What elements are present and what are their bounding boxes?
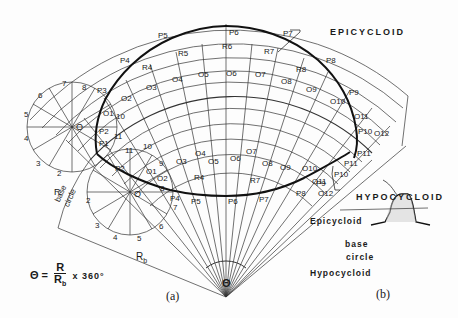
epi-o5: O5: [198, 71, 209, 79]
b-epicycloid-label: Epicycloid: [310, 217, 363, 226]
hypo-o3: O3: [176, 158, 187, 166]
epi-p9: P9: [349, 89, 359, 97]
hypo-o6: O6: [230, 155, 241, 163]
epi-div-11: 11: [114, 133, 122, 141]
epi-o2: O2: [121, 95, 132, 103]
fan-right-edge: [402, 96, 408, 146]
formula-rhs: x 360°: [72, 271, 104, 281]
epi-p8: P8: [326, 57, 336, 65]
rolling-radius-label: R: [54, 188, 61, 197]
caption-b: (b): [376, 288, 390, 300]
hypo-p11: P11: [344, 160, 358, 168]
epi-r5: R5: [178, 50, 188, 58]
epi-div-3: 3: [36, 160, 40, 168]
hypo-div-10: 10: [143, 143, 152, 151]
hypo-r4: R4: [194, 174, 204, 182]
formula-fraction: R Rb: [54, 262, 66, 289]
epi-o11: O11: [354, 113, 369, 121]
epi-o7: O7: [255, 71, 266, 79]
epi-p10: P10: [358, 128, 372, 136]
epi-div-5: 5: [24, 111, 28, 119]
hypo-center-label: O: [134, 190, 141, 199]
epi-o9: O9: [306, 86, 317, 94]
epi-o12: O12: [374, 130, 389, 138]
hypo-o5: O5: [208, 158, 219, 166]
hypo-o9: O9: [280, 164, 291, 172]
epi-div-8: 8: [82, 84, 86, 92]
hypo-o1: O1: [146, 168, 157, 176]
hypo-o10: O10: [302, 165, 317, 173]
hypo-p4: P4: [170, 195, 180, 203]
b-circle-label: circle: [346, 253, 374, 262]
formula-den-sub: b: [62, 280, 66, 287]
formula-denominator: Rb: [54, 274, 66, 289]
b-base-label: base: [345, 240, 368, 249]
hypo-div-5: 5: [137, 235, 141, 243]
epi-o3: O3: [146, 84, 157, 92]
epicycloid-label: EPICYCLOID: [330, 28, 405, 37]
epi-div-10: 10: [116, 113, 125, 121]
epi-p5: P5: [158, 32, 168, 40]
hypo-div-2: 2: [86, 197, 90, 205]
base-radius-sub: b: [143, 257, 147, 264]
epi-p7: P7: [283, 30, 293, 38]
hypo-o11: O11: [312, 178, 327, 186]
epi-o10: O10: [330, 98, 345, 106]
epi-p6: P6: [229, 29, 239, 37]
epi-o4: O4: [172, 76, 183, 84]
hypo-div-4: 4: [113, 234, 117, 242]
hypo-div-9: 9: [159, 160, 163, 168]
hypo-p8: P8: [296, 190, 306, 198]
hypo-p5: P5: [191, 198, 201, 206]
epi-o6: O6: [226, 70, 237, 78]
epi-p11: P11: [357, 150, 371, 158]
hypo-div-3: 3: [95, 222, 99, 230]
epi-p2: P2: [99, 128, 109, 136]
b-hypocycloid-label: Hypocycloid: [310, 269, 372, 278]
hypo-o4: O4: [195, 150, 206, 158]
hypo-p7: P7: [259, 196, 269, 204]
epi-o1: O1: [103, 110, 114, 118]
hypocycloid-label: HYPOCYCLOID: [356, 193, 444, 202]
epi-div-7: 7: [62, 80, 66, 88]
caption-a: (a): [166, 290, 179, 302]
hypo-p2: P2: [115, 165, 125, 173]
epi-div-2: 2: [57, 170, 61, 178]
epi-p4: P4: [120, 57, 130, 65]
hypo-p10: P10: [334, 171, 348, 179]
epi-p1: P1: [99, 140, 109, 148]
base-radius-label: Rb: [136, 252, 147, 264]
epi-r7: R7: [264, 48, 274, 56]
epi-r6: R6: [222, 43, 232, 51]
hypo-o2: O2: [157, 175, 168, 183]
theta-formula: Θ = R Rb x 360°: [30, 262, 105, 289]
hypo-p6: P6: [228, 198, 238, 206]
epi-o8: O8: [281, 78, 292, 86]
hypo-o8: O8: [262, 160, 273, 168]
hypo-r7: R7: [250, 177, 260, 185]
epi-div-4: 4: [24, 135, 28, 143]
theta-label: Θ: [222, 278, 231, 289]
epi-r8: R8: [296, 66, 306, 74]
epicycloid-hypocycloid-diagram: EPICYCLOID HYPOCYCLOID base circle R Rb …: [0, 0, 458, 318]
hypo-o12: O12: [318, 190, 333, 198]
hypo-div-7: 7: [173, 204, 177, 212]
epi-p3: P3: [97, 87, 107, 95]
formula-lhs: Θ =: [30, 269, 48, 281]
hypo-div-11: 11: [125, 147, 133, 155]
epi-r4: R4: [142, 64, 152, 72]
epi-div-6: 6: [38, 92, 42, 100]
hypo-o7: O7: [246, 148, 257, 156]
epi-center-label: O: [76, 123, 83, 132]
hypo-div-6: 6: [159, 223, 163, 231]
formula-den-letter: R: [54, 273, 62, 285]
hypo-div-8: 8: [160, 185, 164, 193]
